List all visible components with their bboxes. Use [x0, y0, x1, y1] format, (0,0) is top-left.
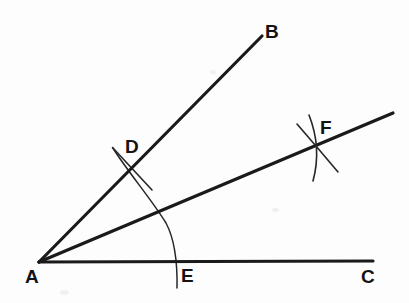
point-label-c: C	[361, 267, 375, 286]
point-label-e: E	[181, 266, 194, 285]
point-label-f: F	[320, 118, 332, 137]
construction-drawing	[0, 0, 409, 303]
point-label-a: A	[25, 267, 39, 286]
ray-af-bisector	[39, 113, 393, 262]
point-label-b: B	[265, 22, 279, 41]
ray-ac	[39, 261, 373, 262]
ray-ab	[39, 36, 262, 262]
point-label-d: D	[125, 137, 139, 156]
geometric-figure-canvas: A B C D E F	[0, 0, 409, 303]
arc-from-d	[297, 124, 338, 172]
